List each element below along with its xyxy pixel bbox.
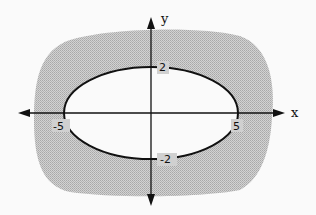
x-intercept-pos-label: 5 <box>233 120 240 133</box>
y-intercept-pos-label: 2 <box>159 61 166 74</box>
y-axis-down-arrow-icon <box>147 194 155 206</box>
y-axis-up-arrow-icon <box>147 17 155 29</box>
x-intercept-neg-label: -5 <box>53 120 64 133</box>
x-axis-left-arrow-icon <box>18 109 30 117</box>
x-axis-right-arrow-icon <box>273 109 285 117</box>
x-axis-label: x <box>291 105 299 120</box>
y-axis-label: y <box>160 11 169 26</box>
graph-canvas: x y 2 -2 -5 5 <box>0 0 316 215</box>
y-intercept-neg-label: -2 <box>160 153 171 166</box>
